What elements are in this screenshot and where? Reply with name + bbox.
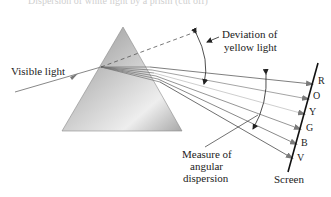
measure-label-line1: Measure of [182,148,232,160]
dispersed-rays [150,67,312,158]
dispersion-leader-line [205,115,258,147]
label-Y: Y [309,106,316,117]
deviation-arc [196,33,206,84]
measure-label-line3: dispersion [183,172,229,184]
label-G: G [306,122,313,133]
deviation-label-line1: Deviation of [222,28,278,40]
deviation-leader-line [207,37,219,42]
prism-dispersion-diagram: Dispersion of white light by a prism (cu… [0,0,331,197]
ray-violet [160,82,292,158]
label-O: O [313,90,320,101]
measure-label-line2: angular [190,160,223,172]
label-R: R [318,75,325,86]
ray-blue [158,79,296,144]
deviation-label-line2: yellow light [224,41,277,53]
partial-caption: Dispersion of white light by a prism (cu… [28,0,208,7]
ray-yellow [154,73,304,114]
ray-orange [152,70,308,99]
visible-light-label: Visible light [11,65,65,77]
ray-red [150,67,312,84]
label-B: B [301,137,308,148]
label-V: V [297,152,305,163]
screen-label: Screen [274,173,304,185]
